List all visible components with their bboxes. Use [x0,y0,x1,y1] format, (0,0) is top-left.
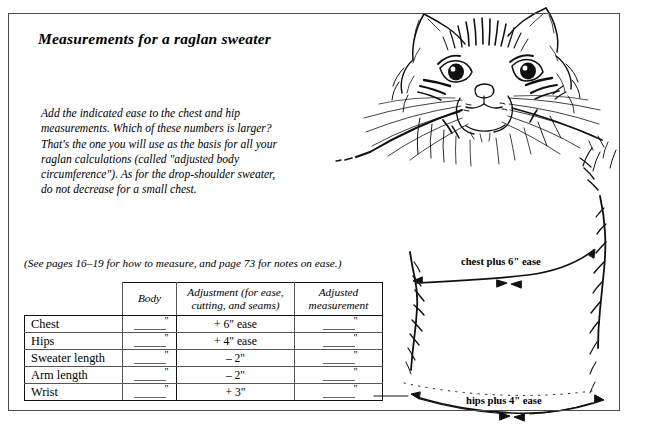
row-adjusted-arm-length[interactable]: " [295,367,383,384]
row-adjustment-chest: + 6" ease [177,316,295,333]
inch-mark: " [354,383,358,394]
header-cell-body: Body [123,283,177,316]
table-row: Sweater length " – 2" " [25,350,383,367]
row-adjustment-wrist: + 3" [177,384,295,401]
header-cell-adjusted: Adjusted measurement [295,283,383,316]
row-adjusted-sweater-length[interactable]: " [295,350,383,367]
figure-page: Measurements for a raglan sweater Add th… [0,0,647,430]
row-label-chest: Chest [25,316,123,333]
header-cell-adjustment: Adjustment (for ease, cutting, and seams… [177,283,295,316]
inch-mark: " [354,366,358,377]
annotation-chest-ease: chest plus 6" ease [461,256,541,267]
row-adjusted-hips[interactable]: " [295,333,383,350]
row-body-wrist[interactable]: " [123,384,177,401]
inch-mark: " [354,349,358,360]
header-cell-blank [25,283,123,316]
inch-mark: " [165,332,169,343]
row-body-chest[interactable]: " [123,316,177,333]
inch-mark: " [165,349,169,360]
inch-mark: " [354,332,358,343]
table-row: Hips " + 4" ease " [25,333,383,350]
table-row: Wrist " + 3" " [25,384,383,401]
row-label-wrist: Wrist [25,384,123,401]
annotation-hips-ease: hips plus 4" ease [466,395,542,406]
row-adjustment-hips: + 4" ease [177,333,295,350]
inch-mark: " [165,315,169,326]
table-row: Chest " + 6" ease " [25,316,383,333]
table-row: Arm length " – 2" " [25,367,383,384]
row-adjusted-chest[interactable]: " [295,316,383,333]
row-adjustment-arm-length: – 2" [177,367,295,384]
row-body-sweater-length[interactable]: " [123,350,177,367]
intro-paragraph: Add the indicated ease to the chest and … [41,106,289,198]
inch-mark: " [165,383,169,394]
table-header-row: Body Adjustment (for ease, cutting, and … [25,283,383,316]
page-title: Measurements for a raglan sweater [38,30,271,48]
row-body-hips[interactable]: " [123,333,177,350]
row-adjusted-wrist[interactable]: " [295,384,383,401]
inch-mark: " [165,366,169,377]
row-body-arm-length[interactable]: " [123,367,177,384]
row-label-sweater-length: Sweater length [25,350,123,367]
table-caption: (See pages 16–19 for how to measure, and… [24,257,341,269]
inch-mark: " [354,315,358,326]
row-label-arm-length: Arm length [25,367,123,384]
row-label-hips: Hips [25,333,123,350]
row-adjustment-sweater-length: – 2" [177,350,295,367]
measurements-table: Body Adjustment (for ease, cutting, and … [24,282,383,401]
